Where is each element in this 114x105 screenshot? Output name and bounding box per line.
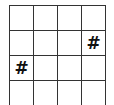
- cell-r1-c2[interactable]: [58, 31, 82, 56]
- cell-r2-c1[interactable]: [34, 56, 58, 81]
- cell-r1-c0[interactable]: [10, 31, 34, 56]
- cell-r1-c1[interactable]: [34, 31, 58, 56]
- cell-r3-c1[interactable]: [34, 81, 58, 105]
- cell-r3-c3[interactable]: [82, 81, 106, 105]
- cell-r3-c0[interactable]: [10, 81, 34, 105]
- cell-r0-c3[interactable]: [82, 6, 106, 31]
- cell-r1-c3-hash-mark[interactable]: #: [82, 31, 106, 56]
- cell-r0-c0[interactable]: [10, 6, 34, 31]
- game-board: # #: [9, 5, 106, 105]
- cell-r3-c2[interactable]: [58, 81, 82, 105]
- cell-r0-c2[interactable]: [58, 6, 82, 31]
- cell-r2-c2[interactable]: [58, 56, 82, 81]
- cell-r2-c0-hash-mark[interactable]: #: [10, 56, 34, 81]
- cell-r0-c1[interactable]: [34, 6, 58, 31]
- cell-r2-c3[interactable]: [82, 56, 106, 81]
